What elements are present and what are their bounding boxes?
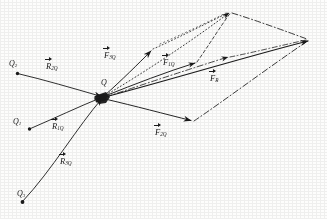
vector-label-F1Q: F1Q [163,58,175,67]
vector-label-F2Q: F2Q [155,128,167,137]
vector-symbol-R2Q: R [46,61,51,71]
vector-symbol-FR: F [210,73,215,83]
origin-node-Q [94,92,110,104]
vector-sub-F2Q: 2Q [160,131,166,137]
vector-label-FR: FR [210,74,218,83]
vector-diagram-svg [0,0,327,219]
construction-line-dashed-F1Q-apex [197,14,230,63]
vector-symbol-F3Q: F [104,50,109,60]
charge-symbol-Q: Q [101,78,107,87]
position-vector-R2Q [18,74,102,97]
charge-sub-Q1: 1 [19,121,21,126]
force-vector-F2Q [105,99,191,121]
force-vector-FR-resultant [105,41,308,97]
position-vector-R1Q [30,98,102,130]
vector-label-R2Q: R2Q [46,62,58,71]
vector-symbol-R3Q: R [60,156,65,166]
vector-label-R1Q: R1Q [52,122,64,131]
construction-line-dotted-F3Q-apex [153,13,229,50]
charge-dot-Q2 [16,72,19,75]
construction-line-dashdot-apex-tip [232,13,307,39]
vector-symbol-R1Q: R [52,121,57,131]
vector-sub-F3Q: 3Q [109,54,115,60]
charge-label-Q-center: Q [101,79,107,87]
charge-label-Q2: Q2 [9,60,17,69]
charge-label-Q1: Q1 [13,118,21,127]
vector-sub-R1Q: 1Q [57,125,63,131]
charge-dots [16,72,31,204]
construction-line-dotted-upper-edge [160,12,228,44]
vector-sub-R3Q: 3Q [65,160,71,166]
charge-dot-Q1 [28,127,31,130]
charge-sub-Q2: 2 [15,63,17,68]
vector-sub-FR: R [215,77,218,83]
charge-sub-Q3: 3 [23,193,25,198]
vector-sub-R2Q: 2Q [51,65,57,71]
construction-line-dashdot-upper-tip [230,40,306,57]
vector-label-F3Q: F3Q [104,51,116,60]
vector-symbol-F1Q: F [163,57,168,67]
charge-dot-Q3 [21,200,25,204]
vector-label-R3Q: R3Q [60,157,72,166]
diagram-canvas: Q2 Q1 Q3 Q R2Q R1Q R3Q F3Q F1Q F2Q FR [0,0,327,219]
vector-sub-F1Q: 1Q [168,61,174,67]
vector-symbol-F2Q: F [155,127,160,137]
charge-label-Q3: Q3 [17,190,25,199]
position-vector-R3Q [23,99,103,202]
